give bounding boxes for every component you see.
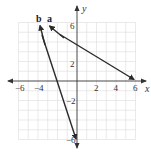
x-tick-2: 2 (94, 83, 99, 93)
y-tick-neg2: −2 (66, 96, 76, 106)
y-axis-label: y (81, 3, 87, 14)
y-tick-2: 2 (70, 59, 75, 69)
y-tick-6: 6 (70, 21, 75, 31)
x-axis-label: x (144, 83, 150, 94)
x-tick-6: 6 (133, 83, 138, 93)
line-a-label: a (47, 13, 52, 24)
coordinate-plane: −6 −4 2 4 6 6 2 −2 −6 x y b a (0, 0, 151, 153)
axes (8, 6, 146, 148)
line-b-label: b (36, 13, 42, 24)
x-tick-neg4: −4 (34, 83, 44, 93)
x-tick-4: 4 (114, 83, 119, 93)
x-tick-neg6: −6 (15, 83, 25, 93)
